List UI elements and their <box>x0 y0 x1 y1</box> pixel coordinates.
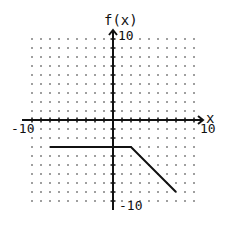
function-graph: f(x) 10 -10 -10 10 x <box>0 0 230 225</box>
y-axis-label: f(x) <box>104 12 138 28</box>
x-min-label: -10 <box>11 121 34 136</box>
y-min-label: -10 <box>119 198 142 213</box>
x-axis-label: x <box>206 110 214 126</box>
y-max-label: 10 <box>118 28 134 43</box>
